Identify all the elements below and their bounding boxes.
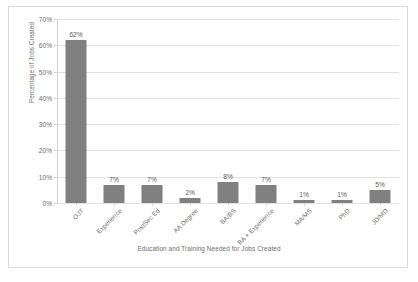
bar[interactable]: [142, 185, 163, 203]
x-axis-tick-mark: [190, 203, 191, 206]
x-axis-tick-mark: [304, 203, 305, 206]
x-axis-tick-label-text: PhD: [337, 207, 351, 221]
bar-value-label: 7%: [147, 176, 157, 183]
x-axis-tick-mark: [76, 203, 77, 206]
x-axis-tick-label-text: JD/MD: [370, 207, 389, 226]
bar-slot: 1%: [285, 19, 323, 203]
bar-value-label: 8%: [223, 173, 233, 180]
y-axis-tick-label: 10%: [39, 173, 52, 180]
y-axis-tick-label: 40%: [39, 94, 52, 101]
x-axis-tick-mark: [228, 203, 229, 206]
bar-slot: 1%: [323, 19, 361, 203]
bar[interactable]: [218, 182, 239, 203]
bar-slot: 7%: [95, 19, 133, 203]
bar-value-label: 1%: [299, 191, 309, 198]
x-axis-tick-label-text: BA/BS: [218, 207, 236, 225]
y-axis-tick-mark: [54, 203, 57, 204]
bar-value-label: 1%: [337, 191, 347, 198]
x-axis-tick-label-text: AA Degree: [172, 207, 199, 234]
bar[interactable]: [104, 185, 125, 203]
y-axis-title: Percentage of Jobs Created: [28, 3, 35, 123]
x-axis-tick-mark: [114, 203, 115, 206]
bar-value-label: 62%: [69, 31, 82, 38]
y-axis-tick-label: 0%: [42, 200, 52, 207]
bar-slot: 2%: [171, 19, 209, 203]
y-axis-tick-label: 60%: [39, 42, 52, 49]
x-axis-tick-label-text: OJT: [71, 207, 85, 221]
chart-container: Percentage of Jobs Created 0%10%20%30%40…: [8, 6, 408, 268]
bar-slot: 62%: [57, 19, 95, 203]
y-axis-tick-label: 20%: [39, 147, 52, 154]
x-axis-tick-label-text: BA + Experience: [236, 207, 275, 246]
bar[interactable]: [66, 40, 87, 203]
x-axis-tick-mark: [342, 203, 343, 206]
y-axis-tick-label: 50%: [39, 68, 52, 75]
plot-area: 0%10%20%30%40%50%60%70% 62%7%7%2%8%7%1%1…: [57, 19, 399, 203]
bar-value-label: 5%: [375, 181, 385, 188]
y-axis-tick-label: 30%: [39, 121, 52, 128]
bar[interactable]: [370, 190, 391, 203]
bar-slot: 5%: [361, 19, 399, 203]
bar[interactable]: [256, 185, 277, 203]
bar-slot: 7%: [133, 19, 171, 203]
bar-value-label: 7%: [261, 176, 271, 183]
x-axis-title: Education and Training Needed for Jobs C…: [9, 245, 409, 252]
bar-value-label: 2%: [185, 189, 195, 196]
x-axis-tick-mark: [380, 203, 381, 206]
y-axis-tick-label: 70%: [39, 16, 52, 23]
x-axis-tick-label-text: Experience: [95, 207, 123, 235]
bar-value-label: 7%: [109, 176, 119, 183]
x-axis-tick-mark: [152, 203, 153, 206]
x-axis-tick-label-text: MA/MS: [293, 207, 313, 227]
bar-slot: 8%: [209, 19, 247, 203]
x-axis-tick-mark: [266, 203, 267, 206]
x-axis-tick-label-text: PostSec Ed: [132, 207, 161, 236]
bar-slot: 7%: [247, 19, 285, 203]
